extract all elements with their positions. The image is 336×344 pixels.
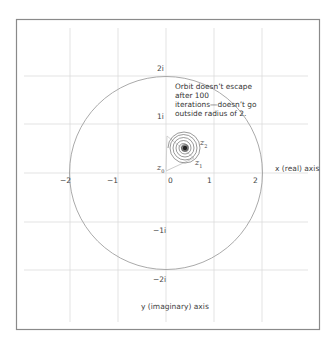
orbit-annotation: Orbit doesn’t escape after 100 iteration… [175,82,271,118]
x-tick-label: 0 [168,177,173,185]
diagram-frame [17,20,320,330]
annotation-line: outside radius of 2. [175,109,271,118]
y-axis-title: y (imaginary) axis [141,303,209,311]
y-tick-label: −2i [153,276,166,284]
x-tick-label: 2 [253,177,258,185]
x-tick-label: −1 [107,177,118,185]
x-tick-label: 1 [207,177,212,185]
x-tick-label: −2 [60,177,71,185]
x-axis-title: x (real) axis [275,165,319,173]
orbit-label-z0: z0 [157,164,164,174]
y-tick-label: 2i [157,65,164,73]
z2-sub: 2 [204,143,207,149]
z0-sub: 0 [161,168,164,174]
y-tick-label: 1i [157,113,164,121]
annotation-line: iterations—doesn’t go [175,100,271,109]
annotation-line: after 100 [175,91,271,100]
annotation-line: Orbit doesn’t escape [175,82,271,91]
orbit-label-z1: z1 [195,159,202,169]
z1-sub: 1 [199,163,202,169]
orbit-label-z2: z2 [200,139,207,149]
y-tick-label: −1i [153,227,166,235]
